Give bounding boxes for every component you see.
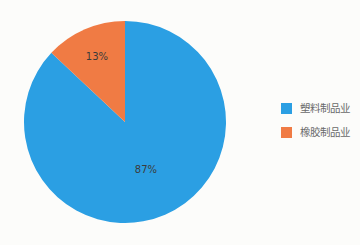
- legend-label-rubber: 橡胶制品业: [300, 127, 350, 138]
- slice-percent-label-1: 13%: [86, 51, 108, 62]
- slice-percent-label-0: 87%: [135, 164, 157, 175]
- legend: 塑料制品业 橡胶制品业: [281, 103, 350, 138]
- pie-chart: 87%13% 塑料制品业 橡胶制品业: [0, 0, 360, 245]
- legend-item-plastic: 塑料制品业: [281, 103, 350, 114]
- legend-swatch-plastic-icon: [281, 103, 292, 114]
- legend-item-rubber: 橡胶制品业: [281, 127, 350, 138]
- legend-label-plastic: 塑料制品业: [300, 103, 350, 114]
- legend-swatch-rubber-icon: [281, 127, 292, 138]
